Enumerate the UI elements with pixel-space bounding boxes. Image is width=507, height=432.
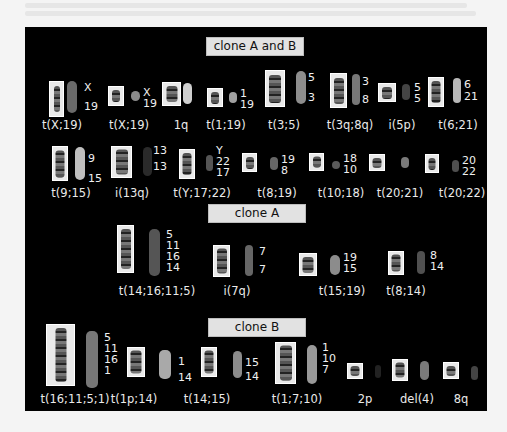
karyotype-caption: t(15;19) — [319, 284, 366, 298]
chromosome-icon — [334, 78, 344, 104]
chromosome-number: 3 — [362, 76, 369, 87]
chromosome-number: 6 — [464, 79, 478, 90]
banded-chromosome-image — [369, 154, 385, 171]
karyotype-caption: 2p — [358, 392, 373, 406]
karyotype-caption: 1q — [174, 118, 189, 132]
chromosome-number-labels: 621 — [464, 79, 478, 102]
chromosome-number: 7 — [259, 264, 266, 275]
chromosome-number-labels: Y2217 — [216, 145, 230, 178]
chromosome-icon — [447, 366, 456, 376]
karyotype-caption: i(13q) — [115, 186, 149, 200]
chromosome-paint-image — [420, 361, 429, 380]
banded-chromosome-image — [52, 146, 68, 181]
karyotype-caption: del(4) — [400, 392, 434, 406]
chromosome-icon — [112, 90, 120, 102]
banded-chromosome-image — [117, 225, 134, 273]
chromosome-number: 13 — [153, 161, 167, 172]
chromosome-icon — [280, 346, 292, 381]
chromosome-paint-image — [159, 350, 171, 379]
banded-chromosome-image — [330, 73, 347, 108]
chromosome-number: 1 — [104, 365, 118, 376]
chromosome-icon — [217, 249, 227, 274]
chromosome-number-labels: 511161 — [104, 332, 118, 376]
chromosome-icon — [211, 92, 219, 104]
banded-chromosome-image — [425, 154, 439, 173]
chromosome-number: 19 — [84, 101, 98, 112]
chromosome-number-labels: 38 — [362, 76, 369, 105]
karyotype-caption: t(X;19) — [109, 118, 149, 132]
chromosome-number: 3 — [308, 92, 315, 103]
banded-chromosome-image — [443, 362, 459, 379]
chromosome-number-labels: 2022 — [462, 155, 476, 177]
chromosome-paint-image — [143, 147, 152, 176]
banded-chromosome-image — [299, 253, 317, 276]
karyotype-caption: 8q — [454, 392, 469, 406]
chromosome-paint-image — [452, 160, 459, 172]
banded-chromosome-image — [108, 86, 124, 106]
karyotype-caption: t(6;21) — [438, 118, 477, 132]
chromosome-number-labels: 915 — [88, 153, 102, 184]
karyotype-caption: t(20;22) — [439, 186, 486, 200]
chromosome-number-labels: 114 — [178, 356, 192, 383]
karyotype-caption: t(1;7;10) — [272, 392, 323, 406]
chromosome-paint-image — [332, 161, 340, 169]
chromosome-paint-image — [417, 251, 425, 274]
chromosome-number: 14 — [245, 371, 259, 382]
chromosome-number: 19 — [143, 98, 157, 109]
banded-chromosome-image — [179, 149, 195, 179]
banded-chromosome-image — [265, 70, 285, 107]
chromosome-number-labels: 1810 — [343, 153, 357, 175]
chromosome-number-labels: 1313 — [153, 145, 167, 172]
chromosome-number: 5 — [414, 93, 421, 104]
banded-chromosome-image — [392, 359, 408, 381]
chromosome-number: 5 — [308, 72, 315, 83]
karyotype-caption: t(8;14) — [386, 284, 425, 298]
chromosome-number: 21 — [464, 91, 478, 102]
chromosome-number-labels: 53 — [308, 72, 315, 103]
chromosome-icon — [183, 153, 192, 175]
chromosome-icon — [392, 255, 401, 272]
chromosome-paint-image — [375, 365, 381, 378]
chromosome-number-labels: 5111614 — [166, 229, 180, 273]
chromosome-number: X — [84, 82, 98, 93]
banded-chromosome-image — [46, 324, 75, 386]
chromosome-icon — [116, 150, 128, 175]
chromosome-paint-image — [149, 229, 160, 276]
banded-chromosome-image — [347, 363, 363, 379]
karyotype-caption: t(14;16;11;5) — [119, 284, 195, 298]
karyotype-caption: t(3q;8q) — [327, 118, 374, 132]
banded-chromosome-image — [127, 347, 145, 377]
banded-chromosome-image — [388, 251, 404, 275]
banded-chromosome-image — [242, 153, 257, 172]
chromosome-number-labels: X19 — [84, 82, 98, 112]
chromosome-number: 14 — [430, 261, 444, 272]
chromosome-number: 17 — [216, 167, 230, 178]
karyotype-caption: t(Y;17;22) — [173, 186, 231, 200]
chromosome-paint-image — [229, 92, 237, 103]
section-header: clone A and B — [206, 37, 304, 56]
chromosome-icon — [205, 351, 214, 374]
chromosome-number: 14 — [178, 372, 192, 383]
chromosome-icon — [269, 75, 281, 103]
karyotype-caption: t(14;15) — [184, 392, 231, 406]
chromosome-number-labels: 119 — [240, 88, 254, 110]
chromosome-paint-image — [270, 157, 278, 170]
chromosome-icon — [121, 229, 131, 269]
chromosome-number-labels: 1107 — [322, 342, 336, 375]
chromosome-number: 8 — [362, 94, 369, 105]
chromosome-number: 15 — [245, 357, 259, 368]
chromosome-paint-image — [183, 83, 192, 104]
chromosome-number: 10 — [343, 164, 357, 175]
chromosome-paint-image — [75, 147, 85, 180]
chromosome-number: 15 — [88, 173, 102, 184]
chromosome-paint-image — [307, 345, 317, 384]
karyotype-caption: t(16;11;5;1) — [40, 392, 109, 406]
banded-chromosome-image — [275, 342, 296, 384]
chromosome-number-labels: 198 — [281, 154, 295, 176]
banded-chromosome-image — [111, 146, 132, 178]
karyotype-caption: t(10;18) — [318, 186, 365, 200]
chromosome-number: 7 — [322, 364, 336, 375]
banded-chromosome-image — [309, 153, 324, 171]
chromosome-number: 9 — [88, 153, 102, 164]
karyotype-caption: t(9;15) — [51, 186, 90, 200]
